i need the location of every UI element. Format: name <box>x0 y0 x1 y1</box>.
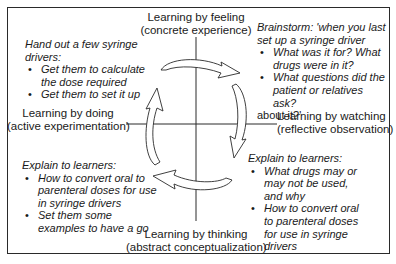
axis-label-top-line2: (concrete experience) <box>136 24 256 37</box>
axis-label-bottom-line2: (abstract conceptualization) <box>126 241 266 254</box>
bottom-right-bullet-2: How to convert oral to parenteral doses … <box>248 202 368 252</box>
top-left-bullet-2: Get them to set it up <box>25 88 145 101</box>
axis-label-right-line2: (reflective observation) <box>277 123 395 136</box>
axis-label-left-line2: (active experimentation) <box>7 120 129 133</box>
bottom-left-heading: Explain to learners: <box>22 159 162 172</box>
top-left-bullet-1: Get them to calculate the dose required <box>25 63 157 88</box>
top-left-heading-line2: drivers: <box>25 51 145 64</box>
axis-label-left: Learning by doing (active experimentatio… <box>7 107 129 133</box>
axis-label-top: Learning by feeling (concrete experience… <box>136 11 256 37</box>
bottom-left-bullet-2: Set them some examples to have a go <box>22 209 162 234</box>
quadrant-bottom-right: Explain to learners: What drugs may or m… <box>248 152 383 253</box>
top-right-heading-line1: Brainstorm: 'when you last <box>257 21 387 34</box>
quadrant-top-left: Hand out a few syringe drivers: Get them… <box>25 38 145 101</box>
quadrant-top-right: Brainstorm: 'when you last set up a syri… <box>257 21 387 122</box>
top-right-bullets: What was it for? What drugs were in it? … <box>257 46 387 109</box>
arrow-right-icon <box>230 84 246 158</box>
top-left-bullets: Get them to calculate the dose required … <box>25 63 145 101</box>
bottom-right-bullets: What drugs may or may not be used, and w… <box>248 165 383 253</box>
bottom-left-bullet-1: How to convert oral to parenteral doses … <box>22 172 164 210</box>
quadrant-bottom-left: Explain to learners: How to convert oral… <box>22 159 162 235</box>
top-right-bullet-1: What was it for? What drugs were in it? <box>257 46 381 71</box>
top-right-bullet-2: What questions did the patient or relati… <box>257 71 389 109</box>
arrow-bottom-icon <box>153 170 232 190</box>
top-right-heading-line2: set up a syringe driver <box>257 34 387 47</box>
bottom-right-bullet-1: What drugs may or may not be used, and w… <box>248 165 364 203</box>
axis-label-top-line1: Learning by feeling <box>136 11 256 24</box>
top-left-heading-line1: Hand out a few syringe <box>25 38 145 51</box>
bottom-right-heading: Explain to learners: <box>248 152 383 165</box>
bottom-left-bullets: How to convert oral to parenteral doses … <box>22 172 162 235</box>
axis-label-left-line1: Learning by doing <box>7 107 129 120</box>
arrow-left-icon <box>146 88 163 165</box>
arrow-top-icon <box>161 60 240 78</box>
top-right-trailing-text: about it?' <box>257 109 387 122</box>
